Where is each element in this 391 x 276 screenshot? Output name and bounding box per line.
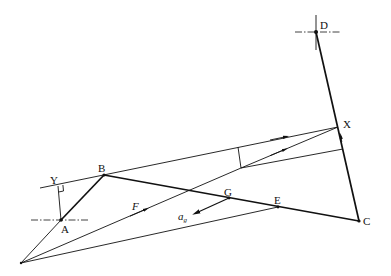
- label-ag: ag: [178, 210, 188, 224]
- link-dc: [316, 32, 359, 221]
- point-d: [314, 30, 318, 34]
- label-f: F: [131, 200, 139, 212]
- label-a: A: [61, 223, 69, 235]
- lower-parallel-line: [241, 149, 343, 168]
- label-ag-sub: g: [184, 216, 188, 224]
- point-c: [357, 219, 360, 222]
- point-a: [59, 218, 63, 222]
- label-b: B: [98, 162, 105, 174]
- label-x: X: [343, 118, 351, 130]
- link-bc: [104, 175, 359, 221]
- label-g: G: [224, 186, 232, 198]
- label-y: Y: [50, 174, 58, 186]
- line-o-to-e: [21, 207, 278, 263]
- point-origin: [20, 262, 22, 264]
- perpendicular-y-to-a: [58, 186, 61, 220]
- line-to-x: [241, 127, 338, 168]
- right-angle-marker: [59, 185, 64, 192]
- label-d: D: [320, 19, 328, 31]
- point-e: [277, 206, 280, 209]
- label-e: E: [274, 194, 281, 206]
- perpendicular-segment: [238, 147, 241, 168]
- line-through-b-to-x: [40, 127, 338, 188]
- label-c: C: [363, 215, 370, 227]
- line-o-to-a: [21, 220, 61, 263]
- arrow-to-x: [270, 149, 285, 155]
- vector-ag: [196, 198, 229, 213]
- mechanism-diagram: D X B Y A G E C F ag: [0, 0, 391, 276]
- link-ab: [61, 175, 104, 220]
